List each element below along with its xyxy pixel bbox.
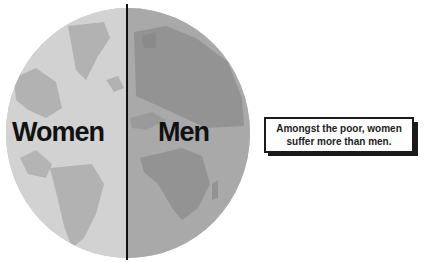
callout-line-1: Amongst the poor, women <box>276 122 402 135</box>
callout-line-2: suffer more than men. <box>286 135 391 148</box>
men-label: Men <box>158 117 209 148</box>
women-label: Women <box>12 117 104 148</box>
divider-line <box>126 4 128 260</box>
callout-box: Amongst the poor, women suffer more than… <box>264 117 414 153</box>
